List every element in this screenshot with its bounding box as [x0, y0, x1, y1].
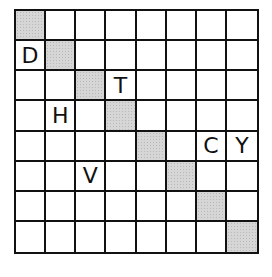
grid-cell[interactable]: [16, 71, 46, 101]
grid-cell[interactable]: [227, 162, 257, 192]
grid-cell[interactable]: [137, 222, 167, 252]
grid-cell[interactable]: D: [16, 41, 46, 71]
grid-cell[interactable]: [167, 132, 197, 162]
grid-cell[interactable]: [197, 71, 227, 101]
grid-cell[interactable]: [76, 222, 106, 252]
grid-cell[interactable]: [137, 71, 167, 101]
grid-cell[interactable]: [227, 101, 257, 131]
grid-cell[interactable]: [46, 222, 76, 252]
grid-cell[interactable]: H: [46, 101, 76, 131]
grid-cell[interactable]: [167, 192, 197, 222]
grid-cell[interactable]: [167, 71, 197, 101]
grid-cell[interactable]: [197, 11, 227, 41]
grid-cell[interactable]: [227, 192, 257, 222]
grid-cell[interactable]: [137, 41, 167, 71]
grid-cell[interactable]: [76, 192, 106, 222]
grid-cell[interactable]: [167, 101, 197, 131]
grid-cell[interactable]: T: [106, 71, 136, 101]
grid-cell[interactable]: [167, 41, 197, 71]
grid-cell-shaded[interactable]: [227, 222, 257, 252]
grid-cell-shaded[interactable]: [167, 162, 197, 192]
grid-cell[interactable]: C: [197, 132, 227, 162]
grid-cell-shaded[interactable]: [16, 11, 46, 41]
grid-cell[interactable]: [16, 192, 46, 222]
grid-cell-shaded[interactable]: [137, 132, 167, 162]
grid-cell[interactable]: [76, 41, 106, 71]
grid-cell-shaded[interactable]: [197, 192, 227, 222]
grid-cell[interactable]: [106, 11, 136, 41]
grid-cell[interactable]: [46, 132, 76, 162]
grid-cell-shaded[interactable]: [106, 101, 136, 131]
grid-cell[interactable]: [197, 101, 227, 131]
grid-cell[interactable]: [106, 222, 136, 252]
grid-cell[interactable]: [227, 11, 257, 41]
grid-cell[interactable]: [137, 11, 167, 41]
grid-cell[interactable]: [106, 162, 136, 192]
puzzle-grid: DTHCYV: [14, 9, 259, 254]
grid-cell[interactable]: [137, 162, 167, 192]
grid-cell[interactable]: Y: [227, 132, 257, 162]
grid-cell[interactable]: [106, 192, 136, 222]
grid-cell[interactable]: [16, 222, 46, 252]
grid-cell[interactable]: [46, 162, 76, 192]
grid-cell-shaded[interactable]: [76, 71, 106, 101]
grid-cell[interactable]: [106, 132, 136, 162]
grid-cell[interactable]: [46, 11, 76, 41]
grid-cell[interactable]: V: [76, 162, 106, 192]
grid-cell[interactable]: [76, 11, 106, 41]
grid-cell[interactable]: [16, 132, 46, 162]
grid-cell[interactable]: [76, 101, 106, 131]
grid-cell[interactable]: [46, 71, 76, 101]
grid-cell[interactable]: [16, 162, 46, 192]
grid-cell[interactable]: [137, 192, 167, 222]
grid-cell-shaded[interactable]: [46, 41, 76, 71]
grid-cell[interactable]: [227, 41, 257, 71]
grid-cell[interactable]: [106, 41, 136, 71]
grid-cell[interactable]: [16, 101, 46, 131]
grid-cell[interactable]: [197, 162, 227, 192]
grid-cell[interactable]: [76, 132, 106, 162]
grid-cell[interactable]: [197, 41, 227, 71]
grid-cell[interactable]: [197, 222, 227, 252]
grid-cell[interactable]: [167, 11, 197, 41]
grid-cell[interactable]: [227, 71, 257, 101]
grid-cell[interactable]: [46, 192, 76, 222]
grid-cell[interactable]: [137, 101, 167, 131]
grid-cell[interactable]: [167, 222, 197, 252]
